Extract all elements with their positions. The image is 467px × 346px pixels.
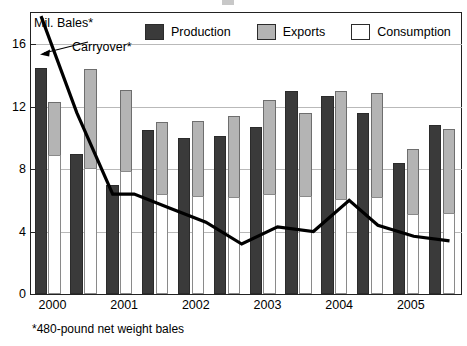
y-axis-tick-8: 8 <box>0 162 26 176</box>
bar-consumption <box>228 197 240 294</box>
bar-production <box>35 68 47 294</box>
bar-consumption <box>120 171 132 294</box>
bar-production <box>106 185 118 294</box>
y-axis-tick-0: 0 <box>0 287 26 301</box>
y-tick-mark-0 <box>30 294 36 295</box>
bar-consumption <box>48 155 60 294</box>
y-axis-tick-16: 16 <box>0 37 26 51</box>
bar-production <box>142 130 154 294</box>
bar-consumption <box>192 196 204 294</box>
x-axis-tick-2003: 2003 <box>254 298 282 312</box>
x-axis-tick-2002: 2002 <box>182 298 210 312</box>
plot-area <box>31 13 461 294</box>
bar-consumption <box>371 197 383 294</box>
bar-consumption <box>156 194 168 294</box>
bar-production <box>393 163 405 294</box>
bar-consumption <box>407 214 419 294</box>
bar-consumption <box>84 168 96 294</box>
y-axis-tick-12: 12 <box>0 100 26 114</box>
bar-production <box>70 154 82 295</box>
bar-production <box>357 113 369 294</box>
chart-footnote: *480-pound net weight bales <box>32 322 184 336</box>
clipped-title-stub <box>222 0 234 5</box>
bar-production <box>178 138 190 294</box>
y-axis-tick-labels: 0481216 <box>0 0 26 346</box>
bar-consumption <box>263 194 275 294</box>
bar-consumption <box>299 196 311 294</box>
chart-figure: 0481216 Mil. Bales* Production Exports C… <box>0 0 467 346</box>
x-axis-tick-2005: 2005 <box>397 298 425 312</box>
bar-production <box>429 125 441 294</box>
bar-production <box>321 96 333 294</box>
x-axis-tick-2000: 2000 <box>39 298 67 312</box>
bar-consumption <box>335 199 347 294</box>
x-axis-tick-2001: 2001 <box>110 298 138 312</box>
bar-production <box>285 91 297 294</box>
x-axis-tick-2004: 2004 <box>325 298 353 312</box>
carryover-annotation-label: Carryover* <box>72 40 132 54</box>
bar-production <box>214 136 226 294</box>
y-axis-tick-4: 4 <box>0 225 26 239</box>
bar-production <box>250 127 262 294</box>
bar-consumption <box>443 213 455 294</box>
